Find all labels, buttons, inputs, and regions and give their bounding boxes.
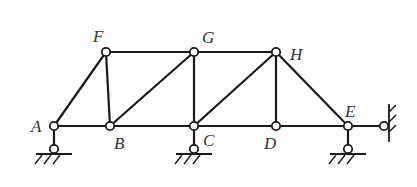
truss-diagram: ABCDEFGH [0, 0, 417, 187]
node-label-b: B [114, 134, 125, 153]
joint-d [272, 122, 280, 130]
node-label-c: C [203, 131, 215, 150]
member-ch [194, 52, 276, 126]
joint-f [102, 48, 110, 56]
wall-hatch [389, 125, 396, 132]
member-af [54, 52, 106, 126]
support-pin [344, 145, 352, 153]
ground-hatch [329, 155, 336, 164]
ground-hatch [338, 155, 345, 164]
truss-canvas: ABCDEFGH [0, 0, 417, 187]
joint-g [190, 48, 198, 56]
ground-hatch [193, 155, 200, 164]
ground-hatch [184, 155, 191, 164]
node-label-d: D [263, 134, 277, 153]
joint-b [106, 122, 114, 130]
joint-h [272, 48, 280, 56]
node-label-f: F [92, 27, 104, 46]
support-e-vertical-link [329, 126, 366, 164]
support-pin [190, 145, 198, 153]
member-fb [106, 52, 110, 126]
wall-hatch [389, 115, 396, 122]
ground-hatch [175, 155, 182, 164]
joint-e [344, 122, 352, 130]
truss-joints [50, 48, 352, 130]
node-label-g: G [202, 28, 214, 47]
node-label-h: H [289, 45, 304, 64]
wall-hatch [389, 105, 396, 112]
supports [35, 104, 396, 164]
support-pin [380, 122, 388, 130]
member-bg [110, 52, 194, 126]
member-he [276, 52, 348, 126]
ground-hatch [35, 155, 42, 164]
node-label-a: A [30, 117, 42, 136]
joint-a [50, 122, 58, 130]
ground-hatch [347, 155, 354, 164]
ground-hatch [44, 155, 51, 164]
truss-members [54, 52, 348, 126]
node-label-e: E [344, 102, 356, 121]
ground-hatch [53, 155, 60, 164]
joint-c [190, 122, 198, 130]
support-pin [50, 145, 58, 153]
